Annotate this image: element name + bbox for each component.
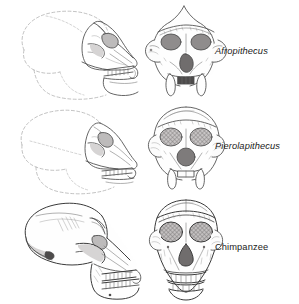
species-label-chimpanzee: Chimpanzee bbox=[215, 243, 268, 252]
afropithecus-lateral-view bbox=[6, 0, 146, 104]
skull-comparison-figure: Afropithecus bbox=[0, 0, 299, 304]
pierolapithecus-frontal-skull-drawing bbox=[148, 107, 224, 189]
chimpanzee-frontal-skull-drawing bbox=[149, 200, 222, 300]
figure-row-pierolapithecus: Pierolapithecus bbox=[0, 97, 299, 197]
figure-row-chimpanzee: Chimpanzee bbox=[0, 192, 299, 304]
pierolapithecus-label-cell: Pierolapithecus bbox=[215, 97, 299, 197]
pierolapithecus-lateral-skull-drawing bbox=[21, 110, 137, 194]
afropithecus-label-cell: Afropithecus bbox=[215, 0, 299, 104]
figure-row-afropithecus: Afropithecus bbox=[0, 0, 299, 104]
afropithecus-lateral-skull-drawing bbox=[22, 11, 138, 99]
pierolapithecus-lateral-view bbox=[6, 97, 146, 197]
chimpanzee-lateral-view bbox=[6, 192, 146, 304]
chimpanzee-lateral-skull-drawing bbox=[25, 203, 141, 299]
species-label-pierolapithecus: Pierolapithecus bbox=[215, 142, 280, 151]
chimpanzee-label-cell: Chimpanzee bbox=[215, 192, 299, 304]
species-label-afropithecus: Afropithecus bbox=[215, 47, 268, 56]
